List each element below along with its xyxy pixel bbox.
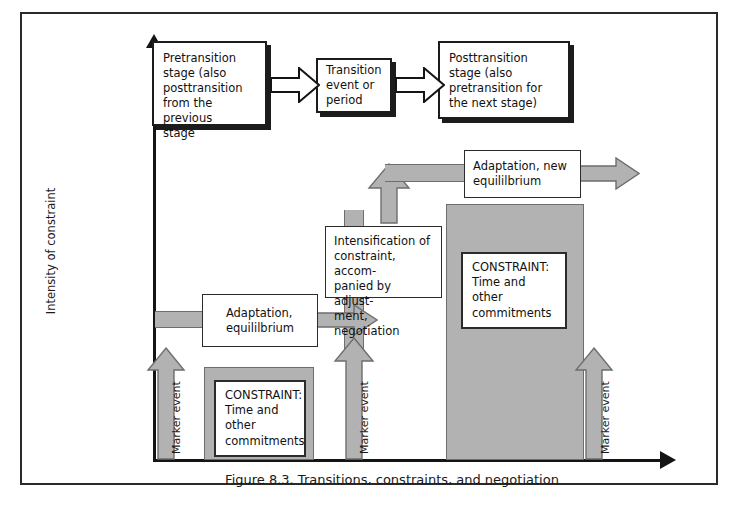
adaptation-new-equilibrium-outflow-arrow bbox=[578, 157, 640, 190]
posttransition-stage-box: Posttransition stage (also pretransition… bbox=[438, 41, 570, 119]
transition-event-box: Transition event or period bbox=[316, 58, 392, 113]
transition-chevron-arrow-1 bbox=[270, 67, 320, 103]
pretransition-stage-box: Pretransition stage (also posttransition… bbox=[152, 41, 267, 126]
intensification-box: Intensification of constraint, accom- pa… bbox=[325, 226, 442, 298]
y-axis-label: Intensity of constraint bbox=[44, 171, 58, 331]
constraint-column-right bbox=[446, 204, 584, 460]
marker-event-label-2: Marker event bbox=[358, 381, 371, 454]
adaptation-new-equilibrium-box: Adaptation, new equililbrium bbox=[464, 150, 581, 198]
page-frame: Intensity of constraint CONSTRAINT: Time… bbox=[20, 12, 718, 485]
constraint-label-left: CONSTRAINT: Time and other commitments bbox=[214, 380, 306, 457]
marker-event-label-3: Marker event bbox=[599, 381, 612, 454]
constraint-label-right: CONSTRAINT: Time and other commitments bbox=[461, 252, 567, 329]
figure-caption: Figure 8.3. Transitions, constraints, an… bbox=[62, 472, 722, 487]
x-axis-arrowhead bbox=[660, 451, 676, 469]
adaptation-equilibrium-box: Adaptation, equililbrium bbox=[202, 294, 318, 347]
marker-event-label-1: Marker event bbox=[170, 381, 183, 454]
figure-page: Intensity of constraint CONSTRAINT: Time… bbox=[0, 0, 736, 510]
transition-chevron-arrow-2 bbox=[395, 67, 445, 103]
